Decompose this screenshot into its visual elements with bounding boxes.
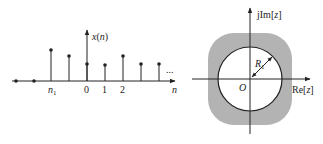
sequence-plot: x(n) n1 0 1 2 ... n bbox=[12, 30, 177, 97]
tick-1: 1 bbox=[102, 84, 107, 95]
im-label: jIm[z] bbox=[256, 9, 281, 20]
stem-dot bbox=[103, 63, 107, 67]
stem-dot bbox=[32, 79, 36, 83]
stem-dot bbox=[49, 48, 53, 52]
diagram-canvas: x(n) n1 0 1 2 ... n jIm[z] Re[z] O R1 bbox=[0, 0, 323, 144]
x-axis-label: n bbox=[172, 84, 177, 95]
stem-dot bbox=[157, 62, 161, 66]
stem-dot bbox=[121, 54, 125, 58]
tick-n1: n1 bbox=[48, 84, 57, 97]
origin-label: O bbox=[239, 82, 246, 93]
stem-dot bbox=[85, 62, 89, 66]
ellipsis: ... bbox=[166, 64, 174, 75]
tick-2: 2 bbox=[120, 84, 125, 95]
stem-dot bbox=[67, 54, 71, 58]
z-plane: jIm[z] Re[z] O R1 bbox=[192, 8, 314, 134]
y-axis-label: x(n) bbox=[91, 31, 108, 43]
stem-dot bbox=[139, 62, 143, 66]
re-label: Re[z] bbox=[292, 84, 314, 95]
tick-0: 0 bbox=[84, 84, 89, 95]
stem-dot bbox=[14, 79, 18, 83]
